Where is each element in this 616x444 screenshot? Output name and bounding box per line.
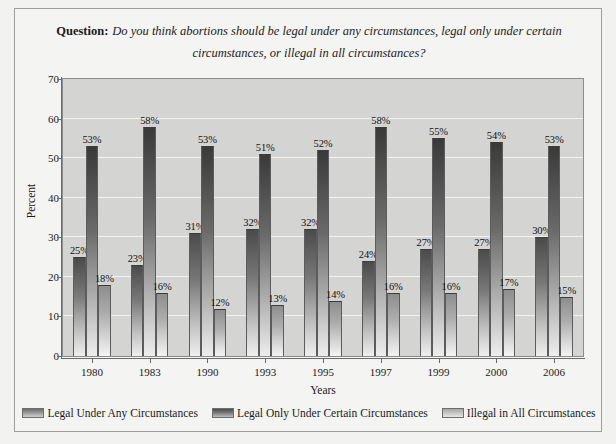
bar-value-label: 17% (494, 277, 525, 288)
bar-value-label: 16% (378, 281, 409, 292)
y-tick-label: 0 (37, 351, 59, 362)
x-tick-mark (496, 359, 497, 363)
legend-swatch-icon (442, 408, 464, 418)
y-tick-mark (57, 79, 61, 80)
bar (73, 257, 86, 356)
bar (478, 249, 491, 356)
y-tick-mark (57, 316, 61, 317)
bar (214, 309, 227, 356)
legend-swatch-icon (212, 408, 234, 418)
bar (387, 293, 400, 356)
bar-value-label: 14% (320, 289, 351, 300)
bar (375, 127, 388, 357)
bar-value-label: 58% (366, 115, 397, 126)
y-tick-label: 40 (37, 193, 59, 204)
y-tick-label: 20 (37, 272, 59, 283)
x-tick-label: 2006 (529, 366, 579, 378)
chart-legend: Legal Under Any CircumstancesLegal Only … (29, 407, 589, 419)
bar (143, 127, 156, 357)
x-tick-mark (323, 359, 324, 363)
y-tick-label: 70 (37, 74, 59, 85)
bar (156, 293, 169, 356)
chart-figure: Question: Do you think abortions should … (14, 8, 602, 432)
legend-swatch-icon (22, 408, 44, 418)
bar (259, 154, 272, 356)
x-tick-mark (381, 359, 382, 363)
question-text: Do you think abortions should be legal u… (112, 24, 561, 60)
bar-value-label: 58% (134, 115, 165, 126)
bar (535, 237, 548, 356)
bar-value-label: 16% (436, 281, 467, 292)
x-tick-label: 1995 (298, 366, 348, 378)
bar (560, 297, 573, 356)
bar-value-label: 16% (147, 281, 178, 292)
bar (445, 293, 458, 356)
x-tick-label: 1993 (240, 366, 290, 378)
y-tick-mark (57, 119, 61, 120)
bar (317, 150, 330, 356)
bar (98, 285, 111, 356)
bar (503, 289, 516, 356)
y-tick-label: 30 (37, 232, 59, 243)
question-label: Question: (56, 24, 108, 38)
bar-value-label: 53% (539, 134, 570, 145)
x-tick-label: 2000 (471, 366, 521, 378)
bar-value-label: 54% (481, 130, 512, 141)
bar-value-label: 13% (262, 293, 293, 304)
legend-label: Legal Only Under Certain Circumstances (237, 407, 428, 419)
bar (490, 142, 503, 356)
bar (201, 146, 214, 356)
bar-value-label: 53% (77, 134, 108, 145)
x-tick-mark (92, 359, 93, 363)
x-tick-mark (265, 359, 266, 363)
y-tick-mark (57, 356, 61, 357)
chart-title: Question: Do you think abortions should … (43, 19, 575, 62)
bar-value-label: 15% (551, 285, 582, 296)
y-tick-mark (57, 198, 61, 199)
plot-area: 25%53%18%23%58%16%31%53%12%32%51%13%32%5… (62, 78, 584, 357)
x-axis-title: Years (62, 384, 584, 396)
gridline (63, 78, 583, 79)
bar-value-label: 55% (423, 126, 454, 137)
bar-value-label: 52% (308, 138, 339, 149)
legend-item[interactable]: Illegal in All Circumstances (442, 407, 596, 419)
y-tick-mark (57, 158, 61, 159)
y-tick-label: 50 (37, 153, 59, 164)
y-axis-title: Percent (25, 171, 37, 231)
y-tick-label: 10 (37, 311, 59, 322)
legend-item[interactable]: Legal Under Any Circumstances (22, 407, 197, 419)
x-tick-mark (150, 359, 151, 363)
bar (304, 229, 317, 356)
bar (329, 301, 342, 356)
bar (420, 249, 433, 356)
x-tick-mark (207, 359, 208, 363)
bar-value-label: 18% (89, 273, 120, 284)
bar-value-label: 53% (192, 134, 223, 145)
bar (432, 138, 445, 356)
x-tick-mark (439, 359, 440, 363)
bar (271, 305, 284, 356)
x-tick-label: 1999 (414, 366, 464, 378)
y-axis-line (61, 77, 62, 359)
bar-value-label: 12% (205, 297, 236, 308)
bar (548, 146, 561, 356)
bar (362, 261, 375, 356)
bar (131, 265, 144, 356)
bar-value-label: 51% (250, 142, 281, 153)
legend-item[interactable]: Legal Only Under Certain Circumstances (212, 407, 428, 419)
y-tick-label: 60 (37, 114, 59, 125)
y-tick-mark (57, 237, 61, 238)
legend-label: Illegal in All Circumstances (467, 407, 596, 419)
x-tick-label: 1990 (182, 366, 232, 378)
y-tick-mark (57, 277, 61, 278)
x-tick-label: 1997 (356, 366, 406, 378)
bar (189, 233, 202, 356)
x-tick-label: 1983 (125, 366, 175, 378)
bar (246, 229, 259, 356)
x-tick-mark (554, 359, 555, 363)
x-tick-label: 1980 (67, 366, 117, 378)
legend-label: Legal Under Any Circumstances (47, 407, 197, 419)
bar (86, 146, 99, 356)
